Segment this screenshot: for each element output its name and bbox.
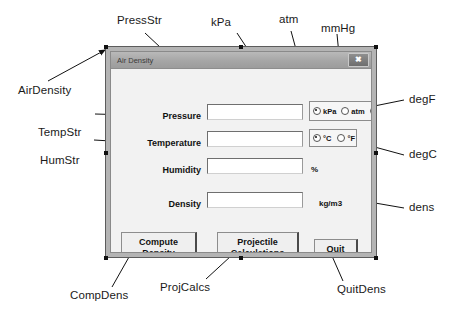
annotation-deg-c: degC: [409, 148, 437, 160]
pressure-label: Pressure: [117, 110, 201, 122]
radio-fahrenheit[interactable]: °F: [337, 134, 355, 143]
annotation-comp-dens: CompDens: [70, 289, 128, 301]
pressure-input[interactable]: [207, 104, 303, 120]
compute-density-button-line2: Density: [142, 248, 175, 254]
radio-celsius[interactable]: °C: [313, 134, 331, 143]
radio-mmhg-dot: [370, 107, 372, 115]
annotation-press-str: PressStr: [117, 14, 162, 26]
quit-button[interactable]: Quit: [314, 239, 358, 253]
annotation-proj-calcs: ProjCalcs: [160, 281, 210, 293]
radio-kpa-dot: [313, 107, 321, 115]
radio-kpa-label: kPa: [323, 107, 336, 116]
projectile-calculations-button-line2: Calculations: [231, 248, 285, 254]
form-client-area: Pressure kPa atm mmHg: [111, 69, 371, 252]
annotation-kpa: kPa: [211, 16, 231, 28]
density-label: Density: [117, 198, 201, 210]
resize-handle-top-left[interactable]: [104, 45, 108, 49]
density-unit-label: kg/m3: [319, 198, 342, 209]
radio-atm-dot: [341, 107, 349, 115]
annotation-mmhg: mmHg: [321, 22, 355, 34]
radio-atm[interactable]: atm: [341, 107, 364, 116]
form-designer-surface[interactable]: Air Density ✖ Pressure kPa atm: [105, 46, 377, 258]
annotation-quit-dens: QuitDens: [337, 283, 386, 295]
resize-handle-middle-left[interactable]: [104, 151, 108, 155]
radio-celsius-label: °C: [323, 134, 331, 143]
pressure-unit-radiogroup[interactable]: kPa atm mmHg: [309, 101, 372, 121]
temperature-label: Temperature: [117, 137, 201, 149]
temperature-unit-radiogroup[interactable]: °C °F: [309, 129, 357, 147]
annotation-hum-str: HumStr: [40, 154, 80, 166]
humidity-unit-label: %: [311, 164, 318, 175]
annotation-dens: dens: [409, 201, 434, 213]
annotation-atm: atm: [279, 13, 298, 25]
window-titlebar[interactable]: Air Density ✖: [111, 52, 371, 69]
resize-handle-top-center[interactable]: [239, 45, 243, 49]
resize-handle-middle-right[interactable]: [374, 151, 378, 155]
annotation-air-density: AirDensity: [18, 84, 71, 96]
radio-kpa[interactable]: kPa: [313, 107, 336, 116]
window-title: Air Density: [117, 56, 153, 65]
radio-celsius-dot: [313, 134, 321, 142]
close-icon[interactable]: ✖: [348, 53, 369, 67]
resize-handle-bottom-center[interactable]: [239, 256, 243, 260]
radio-fahrenheit-dot: [337, 134, 345, 142]
resize-handle-bottom-left[interactable]: [104, 256, 108, 260]
temperature-input[interactable]: [207, 131, 303, 147]
radio-mmhg[interactable]: mmHg: [370, 107, 372, 116]
compute-density-button[interactable]: Compute Density: [121, 232, 197, 253]
annotated-form-designer-screenshot: PressStr kPa atm mmHg AirDensity TempStr…: [0, 0, 454, 321]
annotation-deg-f: degF: [409, 93, 436, 105]
compute-density-button-line1: Compute: [139, 237, 178, 248]
projectile-calculations-button-line1: Projectile: [237, 237, 278, 248]
annotation-temp-str: TempStr: [38, 126, 82, 138]
humidity-label: Humidity: [117, 164, 201, 176]
resize-handle-top-right[interactable]: [374, 45, 378, 49]
humidity-input[interactable]: [207, 158, 303, 174]
density-input[interactable]: [207, 192, 303, 208]
projectile-calculations-button[interactable]: Projectile Calculations: [217, 232, 299, 253]
radio-fahrenheit-label: °F: [347, 134, 355, 143]
radio-atm-label: atm: [351, 107, 364, 116]
air-density-form: Air Density ✖ Pressure kPa atm: [110, 51, 372, 253]
resize-handle-bottom-right[interactable]: [374, 256, 378, 260]
